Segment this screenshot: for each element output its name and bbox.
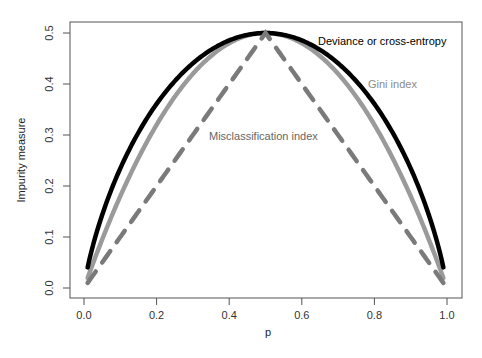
x-tick-label: 0.0	[76, 309, 91, 321]
gini-label: Gini index	[368, 78, 417, 90]
y-tick-label: 0.2	[43, 178, 55, 193]
impurity-chart: 0.00.10.20.30.40.5 0.00.20.40.60.81.0 De…	[0, 0, 482, 358]
x-tick-label: 1.0	[439, 309, 454, 321]
y-tick-label: 0.3	[43, 127, 55, 142]
x-axis-title: p	[265, 326, 271, 338]
y-tick-label: 0.0	[43, 280, 55, 295]
y-tick-label: 0.4	[43, 76, 55, 91]
y-axis-title: Impurity measure	[15, 118, 27, 203]
chart-background	[0, 0, 482, 358]
x-tick-label: 0.8	[367, 309, 382, 321]
x-tick-label: 0.6	[294, 309, 309, 321]
x-tick-label: 0.2	[149, 309, 164, 321]
misclassification-label: Misclassification index	[209, 130, 318, 142]
deviance-label: Deviance or cross-entropy	[318, 35, 447, 47]
y-tick-label: 0.5	[43, 25, 55, 40]
x-tick-label: 0.4	[222, 309, 237, 321]
y-tick-label: 0.1	[43, 229, 55, 244]
